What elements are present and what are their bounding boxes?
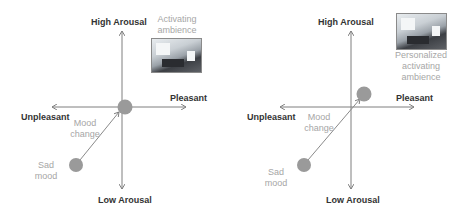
left-ambience-label: Activating ambience [152,14,202,36]
left-low-arousal-label: Low Arousal [98,195,152,205]
right-ambience-photo [396,13,447,50]
right-high-arousal-label: High Arousal [318,17,374,27]
left-mood-change-label: Mood change [70,118,100,140]
right-pleasant-label: Pleasant [396,93,433,103]
right-mood-change-label: Mood change [304,112,334,134]
left-ambience-photo [151,38,202,73]
left-sad-mood-circle [69,158,83,172]
right-ambience-label: Personalized activating ambience [394,50,448,83]
right-target-mood-circle [357,87,372,102]
right-unpleasant-label: Unpleasant [247,112,296,122]
left-high-arousal-label: High Arousal [91,17,147,27]
left-sad-mood-label: Sad mood [34,160,58,182]
right-low-arousal-label: Low Arousal [326,195,380,205]
diagram-graphics [0,0,464,219]
left-unpleasant-label: Unpleasant [21,112,70,122]
right-sad-mood-label: Sad mood [264,167,288,189]
left-target-mood-circle [118,100,133,115]
right-sad-mood-circle [297,158,311,172]
left-pleasant-label: Pleasant [170,93,207,103]
